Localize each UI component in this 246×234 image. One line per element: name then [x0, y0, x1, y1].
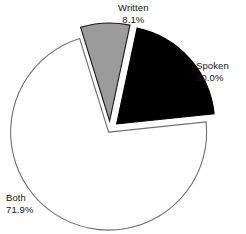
pie-label-written: Written 8.1%: [118, 2, 149, 25]
pie-chart-canvas: [0, 0, 246, 234]
pie-label-spoken: Spoken 20.0%: [196, 60, 229, 83]
pie-label-written-percent: 8.1%: [118, 14, 149, 26]
pie-label-both: Both 71.9%: [6, 192, 33, 215]
pie-label-both-name: Both: [6, 192, 33, 204]
pie-label-spoken-name: Spoken: [196, 60, 229, 72]
pie-label-written-name: Written: [118, 2, 149, 14]
pie-label-spoken-percent: 20.0%: [196, 72, 229, 84]
pie-chart: Written 8.1% Spoken 20.0% Both 71.9%: [0, 0, 246, 234]
pie-label-both-percent: 71.9%: [6, 204, 33, 216]
